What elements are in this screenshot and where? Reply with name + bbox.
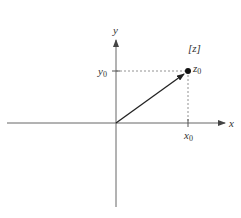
y0-label: y0 bbox=[97, 65, 107, 79]
z0-point bbox=[185, 68, 191, 74]
x0-label: x0 bbox=[183, 129, 193, 143]
y-axis-label: y bbox=[112, 24, 118, 36]
z0-vector bbox=[116, 74, 184, 123]
x-axis-label: x bbox=[228, 117, 234, 129]
z0-label: z0 bbox=[192, 62, 201, 76]
plane-label: [z] bbox=[188, 42, 201, 54]
complex-plane-diagram: y x [z] z0 y0 x0 bbox=[0, 0, 241, 218]
